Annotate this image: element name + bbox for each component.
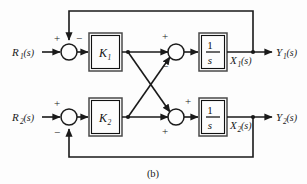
block-diagram-figure: R 1 (s) R 2 (s) X 1 (s) X 2 (s) Y 1 (s) [0, 0, 307, 184]
label-r2-main: R [11, 111, 19, 123]
sign-summer3-feedback: − [54, 126, 60, 138]
summing-junction-3 [61, 109, 77, 125]
integrator-2-numerator: 1 [207, 104, 213, 116]
label-x2-arg: (s) [241, 120, 252, 132]
label-y1-arg: (s) [287, 47, 298, 59]
integrator-1-denominator: s [208, 54, 212, 66]
label-r1-arg: (s) [24, 47, 35, 59]
gain-label-k2-sub: 2 [108, 118, 112, 127]
gain-label-k2-main: K [98, 111, 108, 125]
sign-summer4-cross: + [185, 95, 191, 107]
summing-junction-1 [61, 44, 77, 60]
figure-caption: (b) [147, 168, 160, 180]
gain-label-k1-sub: 1 [108, 53, 112, 62]
summing-junction-4 [168, 109, 184, 125]
sign-summer2-cross: − [162, 60, 168, 72]
block-diagram-canvas: R 1 (s) R 2 (s) X 1 (s) X 2 (s) Y 1 (s) [0, 0, 307, 184]
label-r1-main: R [11, 46, 19, 58]
sign-summer1-input: + [54, 32, 60, 44]
gain-label-k1-main: K [98, 46, 108, 60]
integrator-1-numerator: 1 [207, 39, 213, 51]
label-x1-arg: (s) [241, 55, 252, 67]
integrator-2-denominator: s [208, 119, 212, 131]
sign-summer4-direct: + [162, 125, 168, 137]
sign-summer1-feedback: − [76, 32, 82, 44]
label-y2-arg: (s) [287, 112, 298, 124]
sign-summer2-direct: + [162, 30, 168, 42]
label-r2-arg: (s) [24, 112, 35, 124]
sign-summer3-input: + [54, 97, 60, 109]
